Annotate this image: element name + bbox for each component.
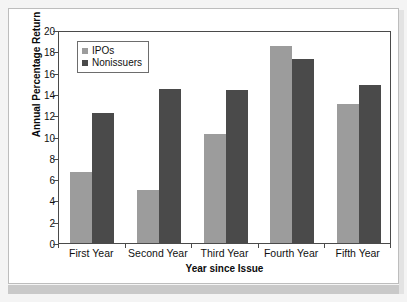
bar-nonissuers-third-year (226, 90, 248, 243)
x-axis-tick-label: Second Year (128, 247, 188, 259)
bar-nonissuers-first-year (92, 113, 114, 243)
figure-shadow-right (399, 10, 404, 294)
bar-nonissuers-fourth-year (292, 59, 314, 243)
x-axis-tick-label: Fourth Year (264, 247, 318, 259)
y-axis-tick-labels: 02468101214161820 (31, 31, 55, 244)
x-axis-tick-label: Fifth Year (336, 247, 380, 259)
x-axis-tick-label: Third Year (201, 247, 249, 259)
bar-nonissuers-fifth-year (359, 85, 381, 243)
legend-label: Nonissuers (92, 57, 142, 69)
figure-card: Annual Percentage Return 024681012141618… (8, 8, 399, 284)
figure-shadow-bottom (8, 285, 400, 294)
legend-label: IPOs (92, 45, 114, 57)
bar-ipos-first-year (70, 172, 92, 243)
legend-swatch-icon (82, 60, 88, 66)
legend-item-nonissuers: Nonissuers (82, 57, 142, 69)
bar-ipos-third-year (204, 134, 226, 243)
legend-swatch-icon (82, 48, 88, 54)
bar-nonissuers-second-year (159, 89, 181, 243)
x-axis-tick-label: First Year (69, 247, 113, 259)
bar-ipos-second-year (137, 190, 159, 243)
chart-legend: IPOsNonissuers (77, 41, 149, 73)
figure-root: Annual Percentage Return 024681012141618… (0, 0, 407, 302)
legend-item-ipos: IPOs (82, 45, 142, 57)
x-axis-tick-labels: First YearSecond YearThird YearFourth Ye… (58, 247, 391, 263)
bar-ipos-fourth-year (270, 46, 292, 243)
plot-area: IPOsNonissuers (58, 31, 391, 244)
bar-ipos-fifth-year (337, 104, 359, 244)
x-axis-title: Year since Issue (58, 263, 391, 274)
